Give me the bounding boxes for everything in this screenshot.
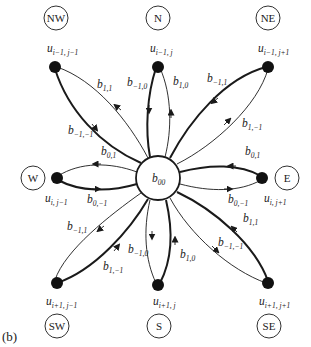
edge-e-out	[180, 180, 261, 190]
edge-label-sw-in: b1,−1	[103, 260, 123, 275]
edge-label-s-out: b−1,0	[128, 243, 148, 258]
edge-s-in	[160, 200, 170, 283]
node-se	[262, 277, 274, 289]
dir-label-e: E	[284, 172, 291, 184]
edge-label-ne-in: b1,−1	[242, 117, 262, 132]
edge-label-n-out: b−1,0	[127, 76, 147, 91]
edge-w-out	[58, 180, 137, 190]
edge-label-s-in: b1,0	[180, 248, 195, 263]
node-e	[256, 172, 268, 184]
edge-loop-w	[58, 164, 137, 190]
edge-n-in	[160, 68, 170, 157]
edge-loop-s	[146, 200, 175, 283]
node-label-n: ui−1, j	[150, 42, 172, 57]
dir-label-w: W	[28, 172, 39, 184]
panel-label: (b)	[2, 329, 17, 344]
node-nw	[49, 61, 61, 73]
node-label-e: ui, j+1	[264, 192, 286, 207]
node-label-s: ui+1, j	[153, 295, 175, 310]
node-sw	[51, 277, 63, 289]
edge-s-out	[146, 200, 156, 283]
edge-label-e-in: b0,1	[245, 145, 260, 160]
edge-n-out	[147, 68, 156, 157]
edge-label-w-out: b0,−1	[87, 193, 107, 208]
node-s	[152, 279, 164, 291]
arrow-icon	[114, 246, 118, 251]
dir-label-s: S	[156, 320, 162, 332]
arrow-icon	[92, 124, 96, 129]
edge-label-e-out: b0,−1	[228, 193, 248, 208]
node-label-w: ui, j−1	[45, 192, 67, 207]
arrow-icon	[99, 226, 104, 230]
node-label-nw: ui−1, j−1	[47, 42, 78, 57]
edge-label-nw-in: b1,1	[97, 78, 112, 93]
edge-e-in	[180, 166, 261, 176]
dir-label-sw: SW	[49, 320, 66, 332]
arrow-icon	[224, 120, 229, 125]
node-label-ne: ui−1, j+1	[258, 42, 289, 57]
node-n	[152, 61, 164, 73]
edge-label-n-in: b1,0	[173, 75, 188, 90]
dir-label-ne: NE	[261, 12, 276, 24]
edge-label-se-in: b1,1	[243, 212, 258, 227]
edge-label-ne-out: b−1,1	[207, 72, 227, 87]
edge-w-in	[58, 165, 137, 176]
edge-loop-e	[180, 166, 261, 190]
node-label-sw: ui+1, j−1	[46, 295, 77, 310]
dir-label-nw: NW	[47, 12, 66, 24]
arrow-icon	[116, 106, 121, 110]
node-w	[51, 172, 63, 184]
edge-loop-n	[147, 68, 171, 157]
dir-label-se: SE	[263, 320, 276, 332]
stencil-diagram: b00 ui−1, j−1 ui−1, j ui−1, j+1 ui, j−1 …	[0, 0, 311, 347]
node-ne	[262, 61, 274, 73]
dir-label-n: N	[154, 12, 162, 24]
node-label-se: ui+1, j+1	[259, 295, 290, 310]
edge-label-sw-out: b−1,1	[67, 220, 87, 235]
